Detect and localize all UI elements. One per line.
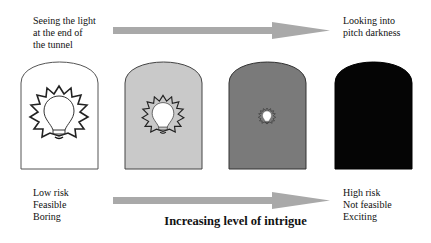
- diagram-canvas: [0, 0, 431, 243]
- panel-1: [21, 62, 98, 169]
- panel-2: [125, 62, 202, 169]
- panel-3: [229, 62, 306, 169]
- top-arrow: [113, 22, 330, 39]
- bottom-arrow: [113, 192, 330, 209]
- panel-4: [335, 62, 412, 169]
